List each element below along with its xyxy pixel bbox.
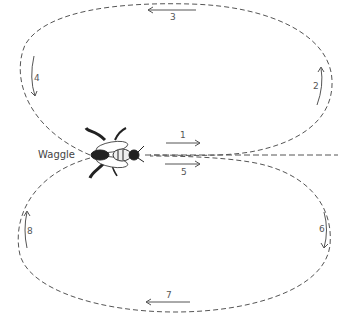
lower-return-loop bbox=[18, 156, 330, 312]
arrow-1 bbox=[166, 140, 200, 146]
step-label-1: 1 bbox=[180, 130, 186, 140]
step-label-3: 3 bbox=[170, 12, 176, 22]
step-label-8: 8 bbox=[27, 226, 33, 236]
waggle-dance-diagram: 1 2 3 4 5 6 7 8 Waggle bbox=[0, 0, 338, 317]
upper-return-loop bbox=[20, 4, 332, 156]
step-label-6: 6 bbox=[319, 224, 325, 234]
step-label-5: 5 bbox=[181, 167, 187, 177]
bee-icon bbox=[86, 128, 144, 178]
step-label-2: 2 bbox=[313, 81, 319, 91]
step-label-4: 4 bbox=[34, 73, 40, 83]
step-label-7: 7 bbox=[166, 290, 172, 300]
waggle-label: Waggle bbox=[38, 149, 75, 160]
